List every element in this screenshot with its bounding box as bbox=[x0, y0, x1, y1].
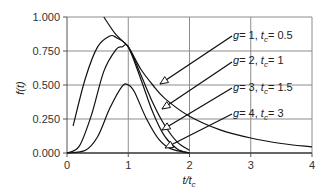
annotation-part: = 1 bbox=[268, 54, 284, 66]
x-tick-label: 4 bbox=[309, 159, 315, 171]
y-tick-label: 0.750 bbox=[32, 45, 60, 57]
annotation-part: = 3 bbox=[268, 107, 284, 119]
arrow-head-icon bbox=[160, 77, 169, 84]
x-tick-label: 3 bbox=[248, 159, 254, 171]
y-tick-label: 0.250 bbox=[32, 113, 60, 125]
annotation-arrows bbox=[160, 36, 232, 148]
y-axis-label: f(t) bbox=[14, 81, 26, 95]
y-tick-label: 1.000 bbox=[32, 11, 60, 23]
chart: 0.0000.2500.5000.7501.000 01234 g= 1, tc… bbox=[0, 0, 329, 196]
annotation-part: = 0.5 bbox=[268, 29, 293, 41]
x-label-sub: c bbox=[192, 180, 196, 189]
y-tick-label: 0.500 bbox=[32, 79, 60, 91]
annotation-part: = 2, bbox=[239, 54, 261, 66]
arrow-head-icon bbox=[165, 141, 174, 148]
y-label-paren: (t) bbox=[14, 81, 26, 92]
annotation-part: = 4, bbox=[239, 107, 261, 119]
annotation-label-3: g= 3, tc= 1.5 bbox=[233, 81, 293, 96]
annotation-part: = 3, bbox=[239, 81, 261, 93]
x-tick-label: 2 bbox=[186, 159, 192, 171]
annotation-label-1: g= 1, tc= 0.5 bbox=[233, 29, 293, 44]
annotation-label-2: g= 2, tc= 1 bbox=[233, 54, 284, 69]
x-tick-labels: 01234 bbox=[64, 159, 315, 171]
annotation-part: = 1.5 bbox=[268, 81, 293, 93]
x-tick-label: 0 bbox=[64, 159, 70, 171]
arrow-line bbox=[162, 88, 232, 130]
annotation-label-4: g= 4, tc= 3 bbox=[233, 107, 284, 122]
annotation-part: = 1, bbox=[239, 29, 261, 41]
x-axis-label: t/tc bbox=[182, 174, 195, 189]
y-tick-label: 0.000 bbox=[32, 147, 60, 159]
arrow-line bbox=[160, 36, 232, 84]
x-tick-label: 1 bbox=[125, 159, 131, 171]
y-tick-labels: 0.0000.2500.5000.7501.000 bbox=[32, 11, 60, 159]
annotations: g= 1, tc= 0.5g= 2, tc= 1g= 3, tc= 1.5g= … bbox=[233, 29, 293, 122]
